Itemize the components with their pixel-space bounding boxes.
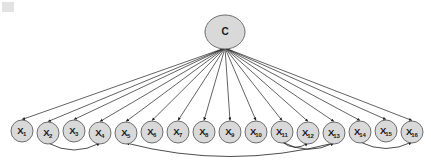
node-subscript-x13: 13 <box>333 133 340 139</box>
node-subscript-x14: 14 <box>359 132 366 138</box>
node-x7[interactable]: X7 <box>167 121 189 143</box>
node-x10[interactable]: X10 <box>245 121 267 143</box>
node-x14[interactable]: X14 <box>349 121 371 143</box>
class-edge-C-to-X16 <box>225 48 412 121</box>
node-x9[interactable]: X9 <box>219 121 241 143</box>
class-edge-C-to-X9 <box>225 48 230 121</box>
class-edge-C-to-X15 <box>225 48 386 120</box>
node-subscript-x11: 11 <box>281 132 288 138</box>
node-x2[interactable]: X2 <box>37 122 59 144</box>
node-x3[interactable]: X3 <box>63 120 85 142</box>
node-x5[interactable]: X5 <box>115 122 137 144</box>
bayesian-network-figure: CX1X2X3X4X5X6X7X8X9X10X11X12X13X14X15X16 <box>0 0 431 167</box>
nodes-group: CX1X2X3X4X5X6X7X8X9X10X11X12X13X14X15X16 <box>11 15 423 144</box>
augmenting-edge-X13-to-X5 <box>126 143 334 157</box>
node-c[interactable]: C <box>205 15 245 49</box>
node-label-c: C <box>221 26 228 37</box>
class-edge-C-to-X14 <box>225 48 360 121</box>
node-x13[interactable]: X13 <box>323 122 345 144</box>
augmenting-edge-X14-to-X16 <box>360 142 412 149</box>
class-edge-C-to-X2 <box>48 48 225 122</box>
node-x4[interactable]: X4 <box>89 122 111 144</box>
node-x12[interactable]: X12 <box>297 122 319 144</box>
node-x16[interactable]: X16 <box>401 121 423 143</box>
node-x1[interactable]: X1 <box>11 120 33 142</box>
node-x11[interactable]: X11 <box>271 121 293 143</box>
node-subscript-x12: 12 <box>307 133 314 139</box>
class-edge-C-to-X10 <box>225 48 256 121</box>
node-subscript-x10: 10 <box>255 132 262 138</box>
class-edge-C-to-X3 <box>74 48 225 120</box>
node-subscript-x15: 15 <box>385 131 392 137</box>
graph-canvas: CX1X2X3X4X5X6X7X8X9X10X11X12X13X14X15X16 <box>0 0 431 167</box>
class-edges-group <box>22 48 412 122</box>
class-edge-C-to-X5 <box>126 48 225 122</box>
node-subscript-x16: 16 <box>411 132 418 138</box>
node-x15[interactable]: X15 <box>375 120 397 142</box>
class-edge-C-to-X13 <box>225 48 334 122</box>
class-edge-C-to-X1 <box>22 48 225 120</box>
augmenting-edge-X2-to-X4 <box>48 143 100 150</box>
class-edge-C-to-X12 <box>225 48 308 122</box>
node-x8[interactable]: X8 <box>193 121 215 143</box>
node-x6[interactable]: X6 <box>141 121 163 143</box>
